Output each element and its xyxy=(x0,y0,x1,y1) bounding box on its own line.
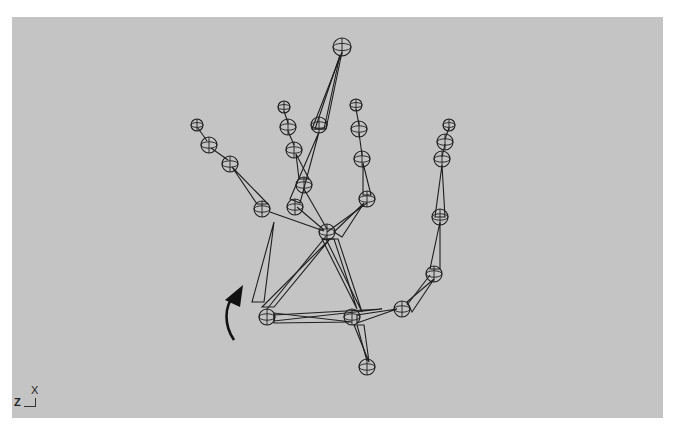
rotation-arrow-icon xyxy=(12,17,663,418)
axis-indicator: X Z xyxy=(14,384,54,414)
axis-line-vertical xyxy=(35,398,36,407)
axis-x-label: X xyxy=(31,384,38,396)
3d-viewport[interactable]: X Z xyxy=(12,17,663,418)
axis-z-label: Z xyxy=(14,396,21,408)
